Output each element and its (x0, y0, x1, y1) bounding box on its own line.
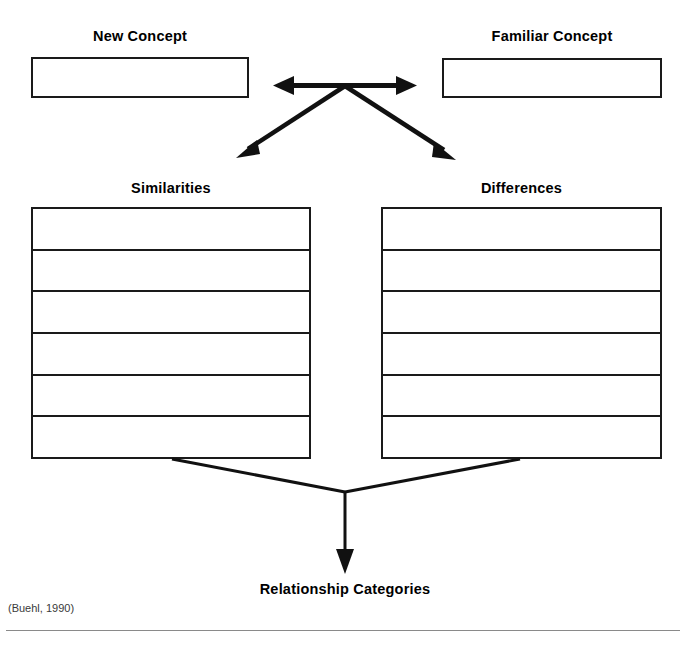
similarities-row[interactable] (33, 334, 309, 376)
differences-label: Differences (381, 180, 662, 196)
branch-to-similarities-arrow-icon (236, 86, 345, 158)
differences-row[interactable] (383, 417, 660, 457)
footer-divider (6, 630, 680, 631)
similarities-label: Similarities (31, 180, 311, 196)
similarities-table (31, 207, 311, 459)
compare-double-arrow-icon (273, 76, 417, 95)
relationship-categories-arrow-icon (336, 491, 354, 574)
familiar-concept-box[interactable] (442, 58, 662, 98)
differences-row[interactable] (383, 251, 660, 293)
diagram-page: New Concept Familiar Concept Similaritie… (0, 0, 687, 646)
relationship-categories-label: Relationship Categories (180, 581, 510, 597)
attribution-text: (Buehl, 1990) (8, 602, 74, 614)
differences-row[interactable] (383, 209, 660, 251)
similarities-row[interactable] (33, 292, 309, 334)
familiar-concept-label: Familiar Concept (442, 28, 662, 44)
similarities-row[interactable] (33, 376, 309, 418)
similarities-row[interactable] (33, 417, 309, 457)
new-concept-label: New Concept (31, 28, 249, 44)
differences-row[interactable] (383, 376, 660, 418)
differences-row[interactable] (383, 292, 660, 334)
similarities-row[interactable] (33, 209, 309, 251)
merge-lines-icon (172, 459, 520, 492)
new-concept-box[interactable] (31, 57, 249, 98)
differences-table (381, 207, 662, 459)
similarities-row[interactable] (33, 251, 309, 293)
branch-to-differences-arrow-icon (345, 86, 456, 160)
differences-row[interactable] (383, 334, 660, 376)
